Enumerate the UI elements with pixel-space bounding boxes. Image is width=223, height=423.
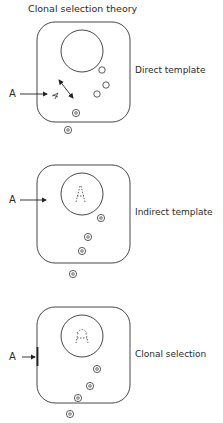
antibody-target-icon: [97, 214, 104, 221]
panel-label-clonal-selection: Clonal selection: [135, 349, 206, 359]
antibody-target-icon: [93, 365, 100, 372]
antibody-target-icon: [64, 126, 71, 133]
dotted-template-icon: [76, 330, 88, 344]
cell-outline: [37, 307, 130, 403]
antibody-target-icon: [69, 270, 76, 277]
antigen-label: A: [9, 88, 16, 99]
dotted-template-icon: [76, 186, 85, 202]
antibody-target-icon: [84, 233, 91, 240]
double-arrow-icon: [59, 80, 73, 98]
antigen-glyph-icon: [52, 93, 58, 99]
antigen-label: A: [9, 194, 16, 205]
antibody-target-icon: [86, 382, 93, 389]
antibody-target-icon: [74, 394, 81, 401]
antigen-label: A: [9, 351, 16, 362]
nucleus: [61, 173, 103, 215]
antibody-target-icon: [72, 109, 79, 116]
antibody-target-icon: [66, 410, 73, 417]
panel-indirect-template: [20, 165, 130, 278]
cell-outline: [37, 165, 130, 263]
panel-label-indirect-template: Indirect template: [135, 207, 213, 217]
vesicle: [99, 67, 105, 73]
vesicle: [103, 82, 109, 88]
nucleus: [61, 30, 103, 72]
panel-clonal-selection: [22, 307, 130, 418]
vesicle: [94, 91, 100, 97]
panel-label-direct-template: Direct template: [135, 65, 205, 75]
antibody-target-icon: [78, 247, 85, 254]
nucleus: [61, 315, 103, 357]
panel-direct-template: [20, 22, 130, 134]
